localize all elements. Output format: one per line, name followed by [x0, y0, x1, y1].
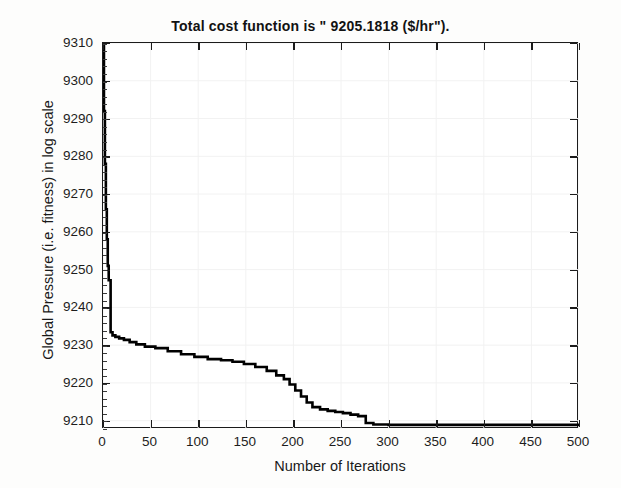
x-tick-mark — [293, 43, 294, 50]
y-minor-tick — [103, 406, 107, 407]
x-axis-title: Number of Iterations — [102, 458, 578, 474]
x-tick-mark — [579, 420, 580, 427]
y-minor-tick — [103, 255, 107, 256]
y-minor-tick — [103, 142, 107, 143]
y-minor-tick — [103, 150, 107, 151]
y-minor-tick — [103, 180, 107, 181]
y-tick-label: 9240 — [8, 299, 100, 314]
x-tick-mark — [389, 43, 390, 50]
y-tick-mark — [570, 307, 577, 308]
y-minor-tick — [103, 112, 107, 113]
y-minor-tick — [103, 369, 107, 370]
y-minor-tick — [103, 331, 107, 332]
x-tick-mark — [198, 420, 199, 427]
figure-canvas: Total cost function is " 9205.1818 ($/hr… — [0, 0, 621, 488]
y-tick-label: 9250 — [8, 261, 100, 276]
x-tick-mark — [293, 420, 294, 427]
x-tick-mark — [436, 420, 437, 427]
x-tick-label: 500 — [548, 434, 608, 449]
y-minor-tick — [103, 233, 107, 234]
y-minor-tick — [103, 263, 107, 264]
y-tick-label: 9270 — [8, 186, 100, 201]
y-minor-tick — [103, 240, 107, 241]
y-minor-tick — [103, 429, 107, 430]
y-minor-tick — [103, 134, 107, 135]
y-minor-tick — [103, 353, 107, 354]
y-minor-tick — [103, 301, 107, 302]
y-minor-tick — [103, 293, 107, 294]
y-minor-tick — [103, 104, 107, 105]
x-tick-mark — [341, 420, 342, 427]
x-tick-mark — [579, 43, 580, 50]
y-tick-mark — [570, 156, 577, 157]
y-minor-tick — [103, 225, 107, 226]
y-tick-label: 9210 — [8, 412, 100, 427]
y-minor-tick — [103, 51, 107, 52]
x-tick-mark — [198, 43, 199, 50]
y-minor-tick — [103, 44, 107, 45]
y-minor-tick — [103, 414, 107, 415]
x-tick-mark — [341, 43, 342, 50]
y-tick-mark — [570, 232, 577, 233]
series-plot — [103, 43, 579, 429]
y-minor-tick — [103, 127, 107, 128]
y-tick-label: 9280 — [8, 148, 100, 163]
y-axis-tick-labels: 9210922092309240925092609270928092909300… — [0, 42, 100, 428]
y-minor-tick — [103, 157, 107, 158]
x-axis-tick-labels: 050100150200250300350400450500 — [102, 434, 578, 454]
y-minor-tick — [103, 172, 107, 173]
y-tick-label: 9260 — [8, 223, 100, 238]
y-minor-tick — [103, 278, 107, 279]
gridlines — [103, 43, 579, 429]
x-tick-mark — [151, 43, 152, 50]
x-tick-mark — [151, 420, 152, 427]
x-tick-mark — [531, 43, 532, 50]
y-minor-tick — [103, 187, 107, 188]
plot-area — [102, 42, 578, 428]
y-minor-tick — [103, 376, 107, 377]
y-minor-tick — [103, 119, 107, 120]
y-tick-label: 9220 — [8, 374, 100, 389]
y-minor-tick — [103, 308, 107, 309]
y-tick-label: 9230 — [8, 337, 100, 352]
x-tick-mark — [484, 43, 485, 50]
y-minor-tick — [103, 59, 107, 60]
y-tick-mark — [570, 383, 577, 384]
y-tick-label: 9290 — [8, 110, 100, 125]
y-tick-mark — [570, 194, 577, 195]
x-tick-mark — [531, 420, 532, 427]
x-tick-mark — [246, 420, 247, 427]
chart-title: Total cost function is " 9205.1818 ($/hr… — [0, 18, 621, 34]
y-minor-tick — [103, 316, 107, 317]
x-tick-mark — [246, 43, 247, 50]
y-minor-tick — [103, 217, 107, 218]
y-tick-mark — [570, 43, 577, 44]
y-minor-tick — [103, 165, 107, 166]
y-minor-tick — [103, 248, 107, 249]
y-tick-mark — [570, 345, 577, 346]
y-tick-mark — [570, 81, 577, 82]
y-minor-tick — [103, 82, 107, 83]
y-minor-tick — [103, 384, 107, 385]
y-minor-tick — [103, 346, 107, 347]
y-minor-tick — [103, 210, 107, 211]
x-tick-mark — [389, 420, 390, 427]
x-tick-mark — [436, 43, 437, 50]
y-minor-tick — [103, 195, 107, 196]
y-minor-tick — [103, 66, 107, 67]
y-minor-tick — [103, 421, 107, 422]
y-minor-tick — [103, 97, 107, 98]
y-minor-tick — [103, 323, 107, 324]
y-minor-tick — [103, 391, 107, 392]
y-minor-tick — [103, 361, 107, 362]
y-tick-mark — [570, 119, 577, 120]
x-tick-mark — [484, 420, 485, 427]
y-minor-tick — [103, 399, 107, 400]
y-tick-mark — [570, 270, 577, 271]
y-minor-tick — [103, 89, 107, 90]
y-minor-tick — [103, 270, 107, 271]
y-tick-label: 9300 — [8, 72, 100, 87]
y-tick-mark — [570, 421, 577, 422]
y-minor-tick — [103, 202, 107, 203]
y-minor-tick — [103, 285, 107, 286]
